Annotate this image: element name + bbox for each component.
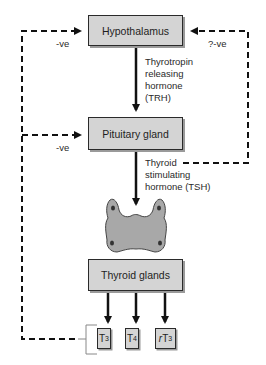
tsh-line-2: stimulating <box>145 169 210 181</box>
thyroid-glands-label: Thyroid glands <box>101 269 170 281</box>
product-t4-box: T4 <box>125 328 139 349</box>
product-sub: 3 <box>168 335 172 342</box>
thyroid-gland-icon <box>106 199 167 252</box>
tsh-line-1: Thyroid <box>145 157 210 169</box>
pituitary-box: Pituitary gland <box>88 117 183 150</box>
connector-lines <box>0 0 266 365</box>
hypothalamus-label: Hypothalamus <box>102 25 169 37</box>
trh-line-2: releasing <box>145 68 193 80</box>
tsh-line-3: hormone (TSH) <box>145 181 210 193</box>
trh-line-3: hormone <box>145 80 193 92</box>
pituitary-label: Pituitary gland <box>102 128 169 140</box>
product-rt3-box: rT3 <box>155 328 176 349</box>
trh-line-1: Thyrotropin <box>145 56 193 68</box>
product-t3-box: T3 <box>97 328 111 349</box>
feedback-label-left-pituitary: -ve <box>56 142 69 154</box>
trh-line-4: (TRH) <box>145 92 193 104</box>
product-sub: 3 <box>105 335 109 342</box>
tsh-label: Thyroid stimulating hormone (TSH) <box>145 157 210 193</box>
thyroid-glands-box: Thyroid glands <box>88 259 183 291</box>
hypothalamus-box: Hypothalamus <box>88 15 183 46</box>
feedback-label-right-hypothalamus: ?-ve <box>208 38 226 50</box>
product-sub: 4 <box>133 335 137 342</box>
trh-label: Thyrotropin releasing hormone (TRH) <box>145 56 193 104</box>
feedback-label-left-hypothalamus: -ve <box>56 38 69 50</box>
